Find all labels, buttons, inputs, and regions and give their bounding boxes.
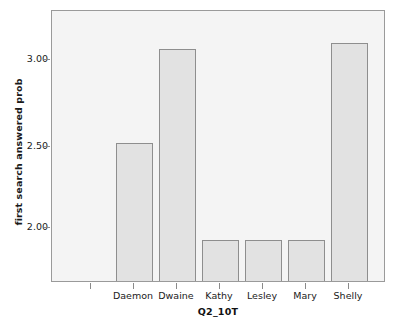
x-tick-label-shelly: Shelly: [318, 290, 378, 302]
bar-chart: first search answered prob 3.00 2.50 2.0…: [0, 0, 398, 328]
y-tick-mark-2.50: [44, 146, 50, 147]
bar-kathy[interactable]: [202, 240, 239, 282]
bar-dwaine[interactable]: [159, 49, 196, 282]
bar-daemon[interactable]: [116, 143, 153, 282]
x-tick-mark-mary: [305, 283, 306, 289]
x-tick-mark-lesley: [262, 283, 263, 289]
bar-lesley[interactable]: [245, 240, 282, 282]
x-tick-mark-0: [90, 283, 91, 289]
y-tick-mark-3.00: [44, 59, 50, 60]
y-tick-3.00: 3.00: [10, 54, 48, 64]
x-tick-mark-dwaine: [176, 283, 177, 289]
x-tick-mark-daemon: [133, 283, 134, 289]
x-tick-mark-shelly: [348, 283, 349, 289]
x-tick-mark-kathy: [219, 283, 220, 289]
x-axis-title: Q2_10T: [51, 306, 385, 317]
bar-mary[interactable]: [288, 240, 325, 282]
y-tick-mark-2.00: [44, 227, 50, 228]
plot-area: [51, 10, 385, 282]
y-tick-2.00: 2.00: [10, 222, 48, 232]
y-tick-2.50: 2.50: [10, 141, 48, 151]
bar-shelly[interactable]: [331, 43, 368, 282]
